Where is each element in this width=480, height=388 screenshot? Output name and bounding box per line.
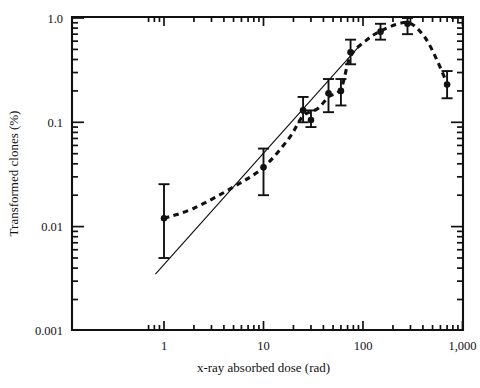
y-axis-label: Transformed clones (%)	[6, 111, 21, 237]
data-point	[258, 149, 269, 196]
marker-filled-circle	[444, 81, 451, 88]
data-point	[159, 184, 170, 258]
y-tick-label: 1.0	[47, 12, 63, 26]
data-point	[402, 18, 413, 34]
chart-svg: 1101001,0001.00.10.010.001x-ray absorbed…	[0, 0, 480, 388]
y-tick-label: 0.1	[47, 116, 63, 130]
marker-filled-circle	[161, 215, 168, 222]
plot-frame	[72, 17, 463, 330]
x-tick-label: 1	[161, 339, 167, 353]
marker-filled-circle	[404, 20, 411, 27]
marker-filled-circle	[325, 90, 332, 97]
figure-caption	[0, 381, 480, 388]
y-tick-label: 0.01	[41, 220, 63, 234]
marker-filled-circle	[377, 28, 384, 35]
marker-filled-circle	[347, 49, 354, 56]
marker-filled-circle	[300, 107, 307, 114]
marker-filled-circle	[260, 164, 267, 171]
data-point	[335, 79, 346, 105]
x-tick-label: 1,000	[448, 339, 476, 353]
x-tick-label: 100	[354, 339, 373, 353]
x-tick-label: 10	[257, 339, 270, 353]
y-tick-label: 0.001	[35, 324, 63, 338]
x-axis-label: x-ray absorbed dose (rad)	[197, 360, 330, 375]
marker-filled-circle	[338, 88, 345, 95]
dashed-response-curve	[164, 22, 447, 218]
figure-container: 1101001,0001.00.10.010.001x-ray absorbed…	[0, 0, 480, 388]
marker-filled-circle	[308, 117, 315, 124]
